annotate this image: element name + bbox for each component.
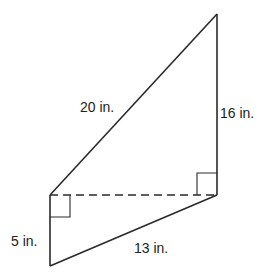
label-5-in: 5 in. xyxy=(11,233,37,249)
right-angle-marker-left xyxy=(50,195,70,217)
label-13-in: 13 in. xyxy=(134,240,168,256)
right-angle-marker-right xyxy=(197,173,217,195)
label-16-in: 16 in. xyxy=(220,105,254,121)
top-hypotenuse xyxy=(50,14,217,195)
geometry-diagram: 20 in. 16 in. 5 in. 13 in. xyxy=(0,0,267,277)
label-20-in: 20 in. xyxy=(80,99,114,115)
